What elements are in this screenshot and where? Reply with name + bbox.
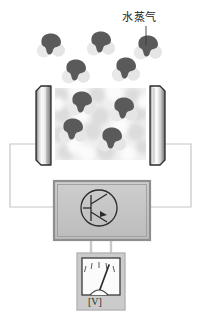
physics-diagram-canvas: 水蒸气 [V] bbox=[0, 0, 201, 319]
water-molecule bbox=[112, 58, 140, 82]
right-plate bbox=[150, 86, 165, 165]
water-molecule bbox=[134, 36, 162, 60]
water-molecule bbox=[37, 34, 65, 58]
free-molecule-group bbox=[37, 32, 162, 84]
vapor-label: 水蒸气 bbox=[122, 12, 157, 23]
water-molecule bbox=[87, 32, 115, 56]
diagram-svg bbox=[0, 0, 201, 319]
water-molecule bbox=[62, 60, 90, 84]
left-plate bbox=[36, 86, 51, 165]
wire-left-plate-to-source bbox=[10, 144, 60, 207]
source-box bbox=[54, 181, 150, 240]
voltmeter-symbol-label: [V] bbox=[88, 297, 102, 307]
